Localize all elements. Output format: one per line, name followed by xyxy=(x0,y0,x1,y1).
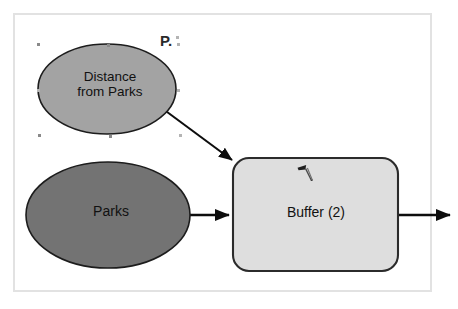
model-diagram-graphics xyxy=(0,0,458,309)
selection-handle-top-right[interactable] xyxy=(177,43,180,46)
selection-handle-bottom-center[interactable] xyxy=(109,135,112,138)
selection-handle-annotation[interactable] xyxy=(176,36,179,39)
node-parks[interactable] xyxy=(26,162,190,268)
selection-handle-middle-left[interactable] xyxy=(37,89,40,92)
selection-handle-top-left[interactable] xyxy=(37,43,40,46)
selection-handle-middle-right[interactable] xyxy=(177,89,180,92)
connector-distance-to-buffer[interactable] xyxy=(159,106,232,160)
model-canvas: P. Distance from Parks Parks Buffer (2) xyxy=(0,0,458,309)
node-distance-from-parks[interactable] xyxy=(38,44,176,134)
annotation-stray-text: P. xyxy=(160,32,172,49)
selection-handle-bottom-right[interactable] xyxy=(179,134,182,137)
selection-handle-bottom-left[interactable] xyxy=(38,134,41,137)
pen-tool-cursor-icon xyxy=(296,163,318,187)
selection-handle-top-center[interactable] xyxy=(107,44,110,47)
